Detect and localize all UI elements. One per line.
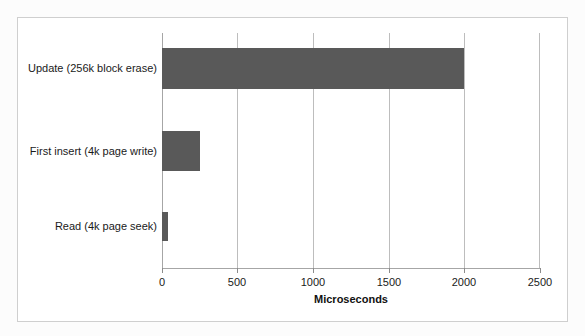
tick-2000 xyxy=(464,268,465,273)
tick-label-2000: 2000 xyxy=(434,276,494,288)
tick-2500 xyxy=(540,268,541,273)
category-label-read: Read (4k page seek) xyxy=(7,220,157,232)
bar-update xyxy=(162,48,464,89)
tick-label-1000: 1000 xyxy=(283,276,343,288)
value-axis-line xyxy=(162,268,540,269)
bar-read xyxy=(162,212,168,241)
x-axis-title: Microseconds xyxy=(162,293,540,305)
tick-1000 xyxy=(313,268,314,273)
tick-1500 xyxy=(389,268,390,273)
gridline-2500 xyxy=(539,33,540,268)
tick-label-1500: 1500 xyxy=(359,276,419,288)
gridline-2000 xyxy=(464,33,465,268)
category-label-update: Update (256k block erase) xyxy=(7,62,157,74)
tick-500 xyxy=(237,268,238,273)
tick-label-2500: 2500 xyxy=(510,276,570,288)
figure-page: Update (256k block erase) First insert (… xyxy=(0,0,585,336)
tick-label-0: 0 xyxy=(132,276,192,288)
tick-label-500: 500 xyxy=(207,276,267,288)
tick-0 xyxy=(162,268,163,273)
plot-area xyxy=(162,33,540,268)
category-label-first-insert: First insert (4k page write) xyxy=(7,145,157,157)
bar-first-insert xyxy=(162,131,200,171)
